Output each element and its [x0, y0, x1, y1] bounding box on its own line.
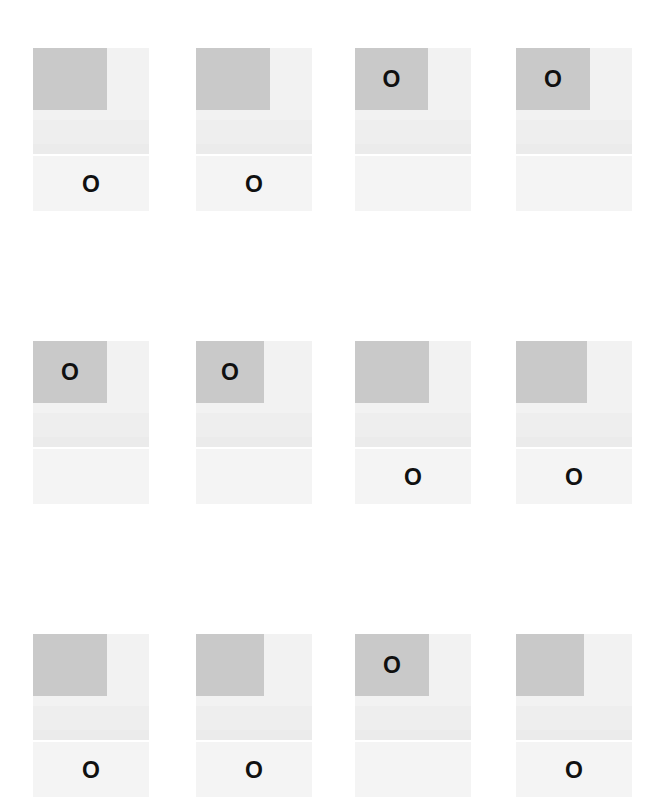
letter-o-marker: O: [245, 172, 263, 195]
tile-gray-block[interactable]: [33, 48, 107, 110]
tile[interactable]: O: [516, 341, 632, 504]
letter-o-marker: O: [383, 68, 401, 91]
tile-grid: OOOOOOOOOOOO: [0, 0, 665, 797]
tile-separator-stripe: [33, 730, 149, 740]
tile[interactable]: O: [355, 634, 471, 797]
letter-o-marker: O: [221, 361, 239, 384]
tile-gray-block[interactable]: [196, 48, 270, 110]
tile-separator-stripe: [355, 437, 471, 447]
tile-gray-block[interactable]: O: [516, 48, 590, 110]
tile-lower-band: O: [355, 449, 471, 504]
tile[interactable]: O: [196, 341, 312, 504]
tile-gray-block[interactable]: [355, 341, 429, 403]
tile-lower-band: [355, 156, 471, 211]
tile-lower-band: O: [516, 449, 632, 504]
page-canvas: OOOOOOOOOOOO: [0, 0, 665, 797]
tile-gray-block[interactable]: O: [355, 634, 429, 696]
tile-lower-band: O: [33, 156, 149, 211]
letter-o-marker: O: [61, 361, 79, 384]
tile-gray-block[interactable]: O: [33, 341, 107, 403]
letter-o-marker: O: [383, 654, 401, 677]
tile-separator-stripe: [355, 144, 471, 154]
tile[interactable]: O: [516, 634, 632, 797]
tile[interactable]: O: [33, 634, 149, 797]
tile-separator-stripe: [33, 437, 149, 447]
tile-separator-stripe: [196, 730, 312, 740]
tile-gray-block[interactable]: [516, 634, 584, 696]
letter-o-marker: O: [565, 465, 583, 488]
tile-separator-stripe: [516, 437, 632, 447]
tile-lower-band: [355, 742, 471, 797]
tile-gray-block[interactable]: [33, 634, 107, 696]
tile-lower-band: O: [516, 742, 632, 797]
tile-separator-stripe: [196, 437, 312, 447]
letter-o-marker: O: [565, 758, 583, 781]
tile[interactable]: O: [196, 634, 312, 797]
tile-gray-block[interactable]: O: [355, 48, 428, 110]
tile-lower-band: [516, 156, 632, 211]
letter-o-marker: O: [82, 758, 100, 781]
tile-lower-band: [33, 449, 149, 504]
letter-o-marker: O: [404, 465, 422, 488]
tile[interactable]: O: [196, 48, 312, 211]
tile-separator-stripe: [516, 144, 632, 154]
tile[interactable]: O: [33, 341, 149, 504]
tile-lower-band: O: [33, 742, 149, 797]
tile-separator-stripe: [355, 730, 471, 740]
tile-separator-stripe: [516, 730, 632, 740]
tile-lower-band: [196, 449, 312, 504]
tile-gray-block[interactable]: [516, 341, 587, 403]
letter-o-marker: O: [544, 68, 562, 91]
tile-separator-stripe: [196, 144, 312, 154]
tile-gray-block[interactable]: O: [196, 341, 264, 403]
letter-o-marker: O: [82, 172, 100, 195]
tile[interactable]: O: [516, 48, 632, 211]
tile-separator-stripe: [33, 144, 149, 154]
tile[interactable]: O: [355, 48, 471, 211]
letter-o-marker: O: [245, 758, 263, 781]
tile-gray-block[interactable]: [196, 634, 264, 696]
tile-lower-band: O: [196, 742, 312, 797]
tile[interactable]: O: [355, 341, 471, 504]
tile-lower-band: O: [196, 156, 312, 211]
tile[interactable]: O: [33, 48, 149, 211]
